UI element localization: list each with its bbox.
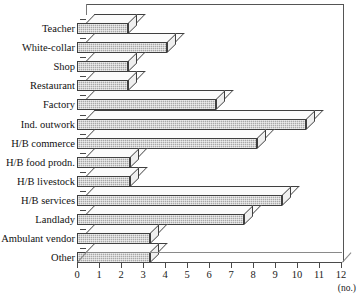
category-tick [80, 153, 86, 154]
category-tick [80, 248, 86, 249]
x-axis-tick [143, 262, 144, 268]
x-axis-tick [209, 262, 210, 268]
bar [77, 167, 140, 188]
category-tick [80, 115, 86, 116]
category-label: White-collar [0, 42, 75, 53]
x-axis-tick-label: 5 [177, 269, 197, 281]
category-label: Ind. outwork [0, 119, 75, 130]
x-axis-unit-label: (no.) [338, 283, 356, 293]
x-axis-tick [341, 262, 342, 268]
category-tick [80, 95, 86, 96]
category-label: H/B commerce [0, 138, 75, 149]
x-axis-tick [99, 262, 100, 268]
x-axis-tick [253, 262, 254, 268]
category-label: Other [0, 252, 75, 263]
bar-top-face [86, 129, 275, 138]
category-tick [80, 210, 86, 211]
bar [77, 90, 226, 111]
bar-top-face [86, 186, 299, 195]
x-axis-tick [297, 262, 298, 268]
category-tick [80, 191, 86, 192]
x-axis-tick-label: 8 [243, 269, 263, 281]
category-label: Shop [0, 61, 75, 72]
x-axis-tick [319, 262, 320, 268]
category-label: Landlady [0, 214, 75, 225]
category-label: H/B food prodn. [0, 157, 75, 168]
category-tick [80, 134, 86, 135]
category-label: Ambulant vendor [0, 233, 75, 244]
category-label: H/B livestock [0, 176, 75, 187]
x-axis-tick [77, 262, 78, 268]
bar-top-face [86, 205, 262, 214]
bar [77, 224, 160, 245]
category-label: Teacher [0, 23, 75, 34]
category-tick [80, 19, 86, 20]
x-axis-tick [275, 262, 276, 268]
axis-floor [86, 252, 342, 253]
x-axis-tick-label: 10 [287, 269, 307, 281]
category-tick [80, 38, 86, 39]
bar [77, 205, 254, 226]
axis-floor-right-edge [342, 252, 354, 264]
bar-chart: TeacherWhite-collarShopRestaurantFactory… [0, 0, 362, 296]
category-label: H/B services [0, 195, 75, 206]
x-axis-tick-label: 3 [133, 269, 153, 281]
category-label: Restaurant [0, 80, 75, 91]
x-axis-tick-label: 6 [199, 269, 219, 281]
x-axis-tick-label: 0 [67, 269, 87, 281]
bar [77, 186, 292, 207]
category-tick [80, 229, 86, 230]
bar [77, 148, 140, 169]
bar-top-face [86, 90, 233, 99]
x-axis-tick [165, 262, 166, 268]
x-axis-tick [121, 262, 122, 268]
category-tick [80, 57, 86, 58]
bar [77, 14, 138, 35]
x-axis-tick [187, 262, 188, 268]
bar-top-face [86, 110, 323, 119]
x-axis-tick-label: 2 [111, 269, 131, 281]
bar [77, 33, 177, 54]
category-label: Factory [0, 99, 75, 110]
bar [77, 129, 267, 150]
x-axis-tick [231, 262, 232, 268]
category-tick [80, 172, 86, 173]
x-axis-tick-label: 7 [221, 269, 241, 281]
x-axis-tick-label: 9 [265, 269, 285, 281]
x-axis-tick-label: 12 [331, 269, 351, 281]
x-axis-tick-label: 11 [309, 269, 329, 281]
x-axis-tick-label: 4 [155, 269, 175, 281]
bar [77, 110, 316, 131]
x-axis-tick-label: 1 [89, 269, 109, 281]
category-tick [80, 76, 86, 77]
